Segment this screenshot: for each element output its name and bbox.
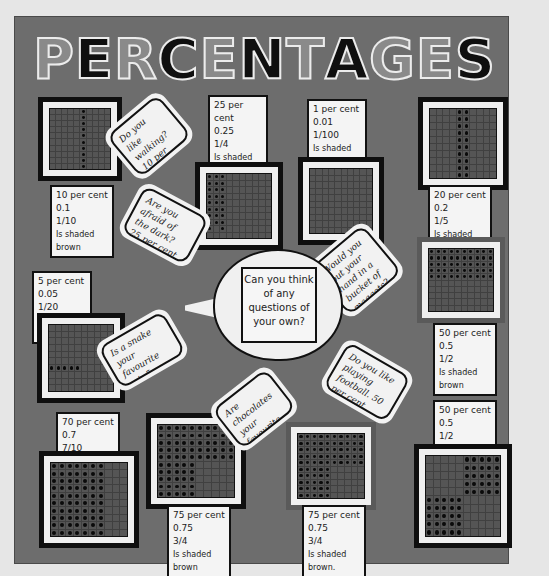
grid-cell (227, 207, 233, 213)
grid-cell (80, 146, 85, 151)
grid-cell (310, 215, 315, 221)
grid-cell (66, 522, 73, 528)
grid-cell (367, 195, 372, 201)
grid-cell (220, 194, 226, 200)
grid-cell (477, 144, 483, 150)
grid-cell (464, 464, 471, 471)
grid-cell (298, 434, 304, 440)
grid-cell (436, 293, 442, 298)
grid-cell (74, 470, 81, 476)
grid-cell (437, 165, 443, 171)
grid-cell (74, 115, 79, 120)
grid-cell (441, 472, 448, 479)
grid-cell (430, 130, 436, 136)
grid-cell (311, 493, 317, 499)
grid-cell (479, 505, 486, 512)
grid-cell (481, 306, 487, 311)
grid-cell (62, 338, 68, 344)
grid-cell (484, 123, 490, 129)
grid-cell (358, 467, 364, 473)
grid-cell (75, 379, 81, 385)
grid-cell (310, 228, 315, 234)
grid-cell (456, 521, 463, 528)
grid-cell (470, 109, 476, 115)
grid-cell (75, 365, 81, 371)
grid-cell (68, 133, 73, 138)
grid-cell (449, 287, 455, 292)
grid-cell (166, 462, 173, 468)
grid-cell (69, 358, 75, 364)
grid-cell (441, 496, 448, 503)
grid-cell (74, 109, 79, 114)
grid-cell (450, 123, 456, 129)
grid-cell (449, 464, 456, 471)
grid-cell (358, 460, 364, 466)
grid-cell (345, 473, 351, 479)
grid-cell (253, 187, 259, 193)
grid-cell (266, 213, 272, 219)
grid-cell (66, 507, 73, 513)
grid-cell (316, 182, 321, 188)
grid-cell (310, 176, 315, 182)
grid-cell (80, 139, 85, 144)
grid-cell (441, 480, 448, 487)
grid-cell (189, 425, 196, 431)
grid-cell (450, 158, 456, 164)
grid-cell (233, 226, 239, 232)
grid-cell (196, 454, 203, 460)
grid-cell (457, 172, 463, 178)
grid-cell (352, 493, 358, 499)
grid-cell (74, 463, 81, 469)
grid-cell (93, 146, 98, 151)
grid-cell (204, 454, 211, 460)
grid-cell (434, 513, 441, 520)
grid-cell (97, 522, 104, 528)
grid-cell (253, 207, 259, 213)
grid-cell (479, 480, 486, 487)
grid-cell (173, 440, 180, 446)
grid-cell (62, 121, 67, 126)
grid-cell (89, 463, 96, 469)
grid-cell (240, 220, 246, 226)
grid-cell (181, 432, 188, 438)
grid-cell (457, 151, 463, 157)
grid-cell (113, 493, 120, 499)
grid-cell (323, 228, 328, 234)
grid-cell (173, 454, 180, 460)
grid-cell (318, 493, 324, 499)
grid-cell (464, 480, 471, 487)
grid-cell (323, 208, 328, 214)
grid-cell (316, 221, 321, 227)
grid-cell (227, 454, 234, 460)
grid-cell (305, 447, 311, 453)
grid-cell (207, 207, 213, 213)
grid-cell (442, 255, 448, 260)
grid-cell (462, 268, 468, 273)
grid-cell (105, 478, 112, 484)
grid-cell (488, 299, 494, 304)
grid-cell (463, 144, 469, 150)
grid-cell (166, 454, 173, 460)
grid-cell (463, 172, 469, 178)
grid-cell (253, 233, 259, 239)
grid-cell (342, 195, 347, 201)
grid-cell (51, 470, 58, 476)
grid-cell (196, 440, 203, 446)
grid-cell (166, 425, 173, 431)
grid-cell (457, 144, 463, 150)
grid-cell (345, 441, 351, 447)
grid-cell (240, 226, 246, 232)
grid-cell (59, 470, 66, 476)
grid-cell (331, 467, 337, 473)
grid-cell (434, 521, 441, 528)
grid-cell (338, 447, 344, 453)
grid-cell (93, 115, 98, 120)
grid-cell (56, 358, 62, 364)
grid-cell (443, 144, 449, 150)
grid-cell (227, 187, 233, 193)
grid-cell (486, 505, 493, 512)
grid-cell (335, 182, 340, 188)
grid-cell (462, 255, 468, 260)
grid-cell (105, 109, 110, 114)
grid-cell (479, 496, 486, 503)
